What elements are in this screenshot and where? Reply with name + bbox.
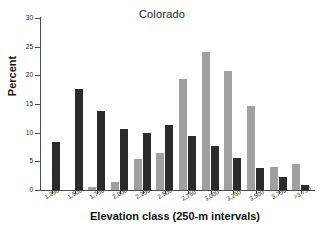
bar-gray [88, 187, 96, 190]
bar-dark [97, 111, 105, 190]
bar-gray [179, 79, 187, 190]
x-axis-label: Elevation class (250-m intervals) [30, 210, 320, 222]
bar-group [247, 18, 267, 190]
y-tick-mark [35, 18, 40, 19]
y-tick-label: 15 [11, 100, 33, 107]
bar-gray [247, 106, 255, 190]
y-tick-mark [35, 161, 40, 162]
bar-group [134, 18, 154, 190]
bar-gray [134, 159, 142, 190]
y-tick-mark [35, 104, 40, 105]
bar-dark [165, 125, 173, 190]
bar-group [66, 18, 86, 190]
y-tick-label: 25 [11, 43, 33, 50]
bar-dark [52, 142, 60, 190]
y-tick-mark [35, 75, 40, 76]
bar-group [202, 18, 222, 190]
bar-group [270, 18, 290, 190]
y-tick-label: 10 [11, 129, 33, 136]
bar-dark [301, 185, 309, 190]
bar-dark [75, 89, 83, 190]
bar-gray [202, 52, 210, 190]
y-tick-label: 5 [11, 157, 33, 164]
bar-dark [279, 177, 287, 190]
bar-dark [143, 133, 151, 190]
bar-gray [292, 164, 300, 190]
y-tick-mark [35, 190, 40, 191]
chart-figure: Colorado Percent 051015202530 1,2501,500… [0, 0, 324, 231]
bar-gray [270, 167, 278, 191]
y-tick-label: 30 [11, 14, 33, 21]
bar-group [111, 18, 131, 190]
bar-gray [156, 153, 164, 190]
plot-area [41, 18, 313, 190]
bar-dark [188, 136, 196, 190]
bar-group [156, 18, 176, 190]
bar-group [292, 18, 312, 190]
bar-group [43, 18, 63, 190]
bar-group [224, 18, 244, 190]
bar-dark [233, 158, 241, 190]
bar-dark [211, 146, 219, 190]
y-tick-label: 20 [11, 71, 33, 78]
y-tick-label: 0 [11, 186, 33, 193]
y-tick-mark [35, 133, 40, 134]
bar-group [179, 18, 199, 190]
bar-dark [120, 129, 128, 190]
bar-dark [256, 168, 264, 190]
bar-gray [111, 182, 119, 190]
y-tick-mark [35, 47, 40, 48]
bar-gray [224, 71, 232, 190]
bar-group [88, 18, 108, 190]
